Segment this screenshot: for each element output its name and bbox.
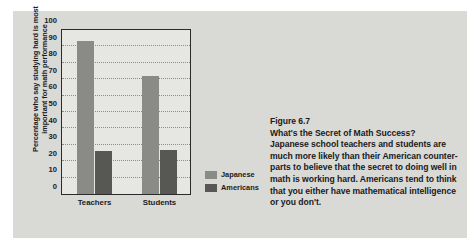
y-axis-tick-label: 90 [49, 32, 57, 41]
y-axis-tick-label: 60 [49, 82, 57, 91]
bar-chart: Percentage who say studying hard is most… [9, 7, 259, 219]
legend-swatch-americans [205, 184, 217, 192]
caption-heading: What's the Secret of Math Success? [270, 128, 460, 140]
caption-body-line: or you don't. [270, 197, 460, 209]
y-axis-tick-label: 20 [49, 148, 57, 157]
figure-caption: Figure 6.7 What's the Secret of Math Suc… [270, 116, 460, 209]
caption-body-line: Japanese school teachers and students ar… [270, 139, 460, 151]
y-axis-tick-label: 0 [53, 182, 57, 191]
legend-item-japanese: Japanese [205, 170, 265, 179]
y-axis-title: Percentage who say studying hard is most… [32, 0, 62, 164]
y-axis-tick-label: 70 [49, 65, 57, 74]
legend-swatch-japanese [205, 171, 217, 179]
caption-body-line: parts to believe that the secret to doin… [270, 162, 460, 174]
caption-figure-number: Figure 6.7 [270, 116, 460, 128]
caption-body-line: that you either have mathematical intell… [270, 186, 460, 198]
caption-body: Japanese school teachers and students ar… [270, 139, 460, 209]
x-axis-label-teachers: Teachers [78, 198, 112, 207]
y-axis-tick-label: 50 [49, 99, 57, 108]
y-axis-tick-label: 30 [49, 132, 57, 141]
legend-label-japanese: Japanese [221, 170, 255, 179]
figure-root: Percentage who say studying hard is most… [0, 0, 467, 238]
legend-item-americans: Americans [205, 183, 265, 192]
caption-body-line: math is working hard. Americans tend to … [270, 174, 460, 186]
y-axis-tick-label: 10 [49, 165, 57, 174]
caption-body-line: much more likely than their American cou… [270, 151, 460, 163]
y-axis-tick-label: 80 [49, 49, 57, 58]
x-axis-label-students: Students [143, 198, 176, 207]
y-axis-ticks: 0102030405060708090100 [61, 29, 191, 195]
y-axis-tick-label: 100 [44, 16, 57, 25]
chart-legend: Japanese Americans [205, 170, 265, 196]
legend-label-americans: Americans [221, 183, 259, 192]
y-axis-tick-label: 40 [49, 115, 57, 124]
